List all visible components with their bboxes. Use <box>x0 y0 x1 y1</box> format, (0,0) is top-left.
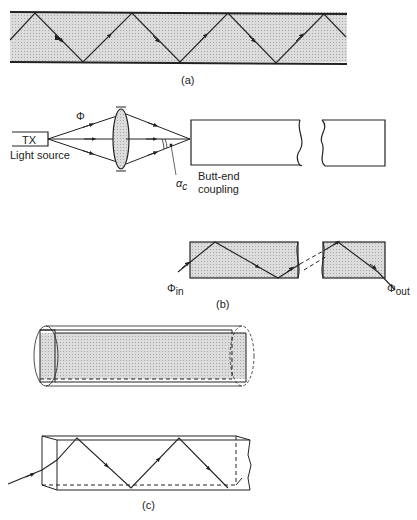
alpha-c-label: αc <box>176 177 187 193</box>
panel-b-coupling <box>12 107 385 175</box>
light-source-label: Light source <box>10 149 70 161</box>
coupling-label: coupling <box>198 183 239 195</box>
panel-b-fiber-rays <box>178 242 395 290</box>
caption-b: (b) <box>216 298 229 310</box>
panel-a-slab-waveguide <box>10 12 347 64</box>
panel-c-prism <box>8 436 251 490</box>
butt-end-label: Butt-end <box>198 170 240 182</box>
phi-in-label: Φin <box>167 282 184 298</box>
fiber-left <box>191 120 300 165</box>
caption-c: (c) <box>142 499 155 511</box>
caption-a: (a) <box>181 74 194 86</box>
waveguide-diagram <box>0 0 417 520</box>
phi-label: Φ <box>76 110 85 122</box>
panel-c-cylinder <box>34 326 254 386</box>
fiber-right <box>322 120 385 166</box>
phi-out-label: Φout <box>387 282 410 298</box>
tx-label: TX <box>22 134 36 146</box>
